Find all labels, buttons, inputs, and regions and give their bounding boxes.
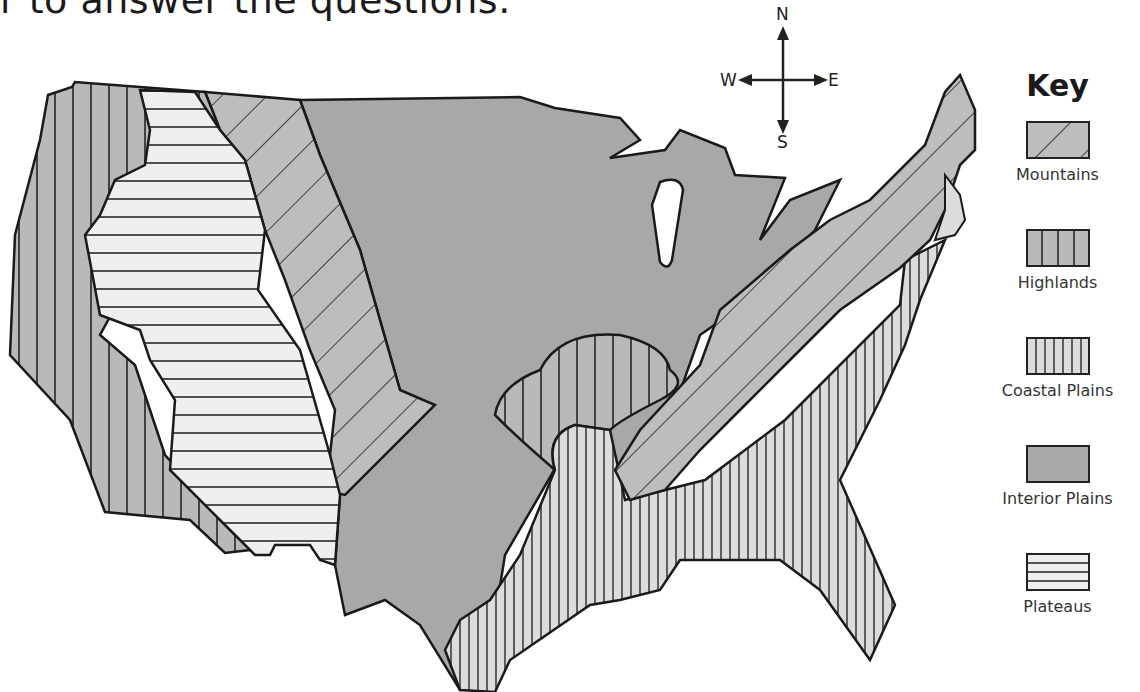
key-item-interior-plains: Interior Plains bbox=[975, 445, 1140, 553]
compass-rose: N S W E bbox=[700, 8, 840, 158]
plateaus-swatch-icon bbox=[1026, 553, 1090, 591]
compass-north-label: N bbox=[776, 4, 789, 24]
key-item-mountains: Mountains bbox=[975, 121, 1140, 229]
compass-south-label: S bbox=[777, 132, 788, 152]
key-label: Highlands bbox=[975, 273, 1140, 292]
mountains-swatch-icon bbox=[1026, 121, 1090, 159]
key-label: Interior Plains bbox=[975, 489, 1140, 508]
compass-east-label: E bbox=[828, 70, 839, 90]
compass-west-label: W bbox=[720, 70, 737, 90]
key-title: Key bbox=[975, 68, 1140, 103]
key-item-plateaus: Plateaus bbox=[975, 553, 1140, 661]
key-label: Mountains bbox=[975, 165, 1140, 184]
highlands-swatch-icon bbox=[1026, 229, 1090, 267]
key-item-coastal-plains: Coastal Plains bbox=[975, 337, 1140, 445]
us-landform-map bbox=[0, 0, 1140, 692]
key-label: Coastal Plains bbox=[975, 381, 1140, 400]
interior-plains-swatch-icon bbox=[1026, 445, 1090, 483]
map-key: Key Mountains Highlands Coastal Plains I… bbox=[975, 68, 1140, 661]
key-label: Plateaus bbox=[975, 597, 1140, 616]
key-item-highlands: Highlands bbox=[975, 229, 1140, 337]
coastal-plains-swatch-icon bbox=[1026, 337, 1090, 375]
